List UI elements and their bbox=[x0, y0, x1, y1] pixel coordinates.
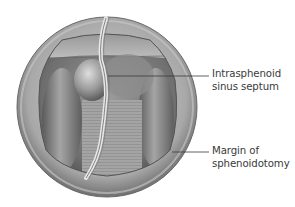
label-margin-line1: Margin of bbox=[212, 145, 290, 158]
label-septum-line1: Intrasphenoid bbox=[212, 68, 281, 81]
label-intrasphenoid-septum: Intrasphenoid sinus septum bbox=[212, 68, 281, 93]
label-margin-sphenoidotomy: Margin of sphenoidotomy bbox=[212, 145, 290, 170]
label-margin-line2: sphenoidotomy bbox=[212, 158, 290, 171]
label-septum-line2: sinus septum bbox=[212, 81, 281, 94]
sphenoid-sinus-illustration bbox=[0, 0, 295, 207]
